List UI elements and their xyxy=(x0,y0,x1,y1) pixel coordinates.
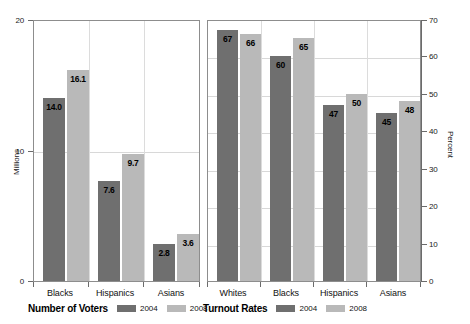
bar-label-turnout-blacks-2008: 65 xyxy=(299,42,308,52)
right-plot-area: 67 66 60 65 47 50 45 48 xyxy=(207,20,421,282)
right-ytick-label-60: 60 xyxy=(429,52,438,61)
left-cat-tick-0 xyxy=(33,282,34,287)
right-category-separator-1 xyxy=(261,21,262,281)
right-ytick-label-20: 20 xyxy=(429,202,438,211)
bar-turnout-whites-2004: 67 xyxy=(217,30,238,281)
bar-turnout-hispanics-2008: 50 xyxy=(346,94,367,281)
bar-label-voters-blacks-2004: 14.0 xyxy=(46,102,62,112)
bar-voters-asians-2004: 2.8 xyxy=(153,244,175,281)
right-ytick-20 xyxy=(422,206,427,207)
right-ytick-40 xyxy=(422,131,427,132)
bar-label-voters-hispanics-2004: 7.6 xyxy=(103,185,114,195)
left-plot-area: 14.0 16.1 7.6 9.7 2.8 3.6 xyxy=(33,20,200,282)
right-category-separator-2 xyxy=(314,21,315,281)
right-legend-label-2008: 2008 xyxy=(349,304,367,313)
left-legend-item-2008: 2008 xyxy=(167,304,208,313)
bar-turnout-hispanics-2004: 47 xyxy=(323,105,344,281)
bar-label-turnout-whites-2004: 67 xyxy=(223,34,232,44)
bar-turnout-asians-2008: 48 xyxy=(399,101,420,281)
legend-swatch-2008-icon xyxy=(326,305,345,312)
right-ytick-label-30: 30 xyxy=(429,164,438,173)
left-category-separator-2 xyxy=(144,21,145,281)
right-category-label-asians: Asians xyxy=(380,288,406,298)
right-ytick-0 xyxy=(422,281,427,282)
left-category-label-blacks: Blacks xyxy=(47,288,73,298)
right-chart-footer: Turnout Rates 2004 2008 xyxy=(203,303,367,314)
left-category-label-hispanics: Hispanics xyxy=(96,288,134,298)
left-cat-tick-2 xyxy=(143,282,144,287)
right-cat-tick-4 xyxy=(420,282,421,287)
right-ytick-label-50: 50 xyxy=(429,89,438,98)
bar-label-turnout-hispanics-2004: 47 xyxy=(329,109,338,119)
bar-turnout-blacks-2004: 60 xyxy=(270,56,291,281)
left-cat-tick-3 xyxy=(199,282,200,287)
right-ytick-30 xyxy=(422,169,427,170)
right-cat-tick-0 xyxy=(207,282,208,287)
bar-label-voters-blacks-2008: 16.1 xyxy=(70,74,86,84)
left-chart-title: Number of Voters xyxy=(28,303,108,314)
left-legend-label-2004: 2004 xyxy=(140,304,158,313)
bar-voters-blacks-2008: 16.1 xyxy=(67,70,89,281)
bar-voters-asians-2008: 3.6 xyxy=(177,234,199,281)
bar-voters-blacks-2004: 14.0 xyxy=(43,98,65,281)
bar-voters-hispanics-2008: 9.7 xyxy=(122,154,144,281)
legend-swatch-2004-icon xyxy=(117,305,136,312)
legend-swatch-2008-icon xyxy=(167,305,186,312)
left-ytick-label-20: 20 xyxy=(4,16,24,25)
right-ytick-label-40: 40 xyxy=(429,127,438,136)
right-category-label-hispanics: Hispanics xyxy=(320,288,358,298)
right-ytick-label-10: 10 xyxy=(429,239,438,248)
left-category-label-asians: Asians xyxy=(158,288,184,298)
right-ytick-10 xyxy=(422,244,427,245)
bar-turnout-whites-2008: 66 xyxy=(240,34,261,281)
bar-label-turnout-asians-2008: 48 xyxy=(405,105,414,115)
right-ytick-70 xyxy=(422,20,427,21)
bar-label-turnout-hispanics-2008: 50 xyxy=(352,98,361,108)
right-ytick-label-0: 0 xyxy=(429,277,433,286)
bar-turnout-blacks-2008: 65 xyxy=(293,38,314,281)
right-ytick-50 xyxy=(422,94,427,95)
bar-label-turnout-whites-2008: 66 xyxy=(246,38,255,48)
right-legend-item-2004: 2004 xyxy=(276,304,317,313)
left-cat-tick-1 xyxy=(88,282,89,287)
left-ytick-label-0: 0 xyxy=(4,277,24,286)
left-legend-item-2004: 2004 xyxy=(117,304,158,313)
right-y-axis-title: Percent xyxy=(446,131,455,158)
left-ytick-label-10: 10 xyxy=(4,146,24,155)
bar-label-voters-asians-2004: 2.8 xyxy=(158,248,169,258)
legend-swatch-2004-icon xyxy=(276,305,295,312)
right-legend-label-2004: 2004 xyxy=(299,304,317,313)
bar-voters-hispanics-2004: 7.6 xyxy=(98,181,120,281)
right-legend-item-2008: 2008 xyxy=(326,304,367,313)
right-category-label-blacks: Blacks xyxy=(273,288,299,298)
right-chart-title: Turnout Rates xyxy=(203,303,267,314)
right-category-separator-3 xyxy=(367,21,368,281)
bar-label-turnout-blacks-2004: 60 xyxy=(276,60,285,70)
right-cat-tick-1 xyxy=(260,282,261,287)
bar-turnout-asians-2004: 45 xyxy=(376,113,397,281)
right-category-label-whites: Whites xyxy=(220,288,247,298)
bar-label-turnout-asians-2004: 45 xyxy=(382,117,391,127)
left-category-separator-1 xyxy=(89,21,90,281)
right-ytick-60 xyxy=(422,56,427,57)
right-cat-tick-2 xyxy=(313,282,314,287)
bar-label-voters-hispanics-2008: 9.7 xyxy=(127,158,138,168)
right-cat-tick-3 xyxy=(366,282,367,287)
bar-label-voters-asians-2008: 3.6 xyxy=(182,238,193,248)
left-chart-footer: Number of Voters 2004 2008 xyxy=(28,303,208,314)
right-ytick-label-70: 70 xyxy=(429,16,438,25)
